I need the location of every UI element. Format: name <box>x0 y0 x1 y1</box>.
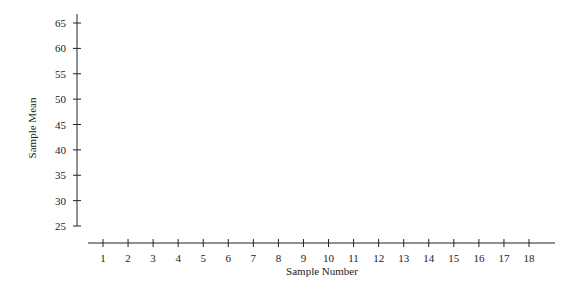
y-tick-label: 30 <box>55 195 67 207</box>
x-tick-label: 8 <box>276 252 282 264</box>
y-tick-label: 60 <box>55 42 67 54</box>
y-tick-label: 55 <box>55 68 67 80</box>
y-tick-label: 40 <box>55 144 67 156</box>
y-tick-label: 65 <box>55 17 67 29</box>
x-tick-label: 13 <box>398 252 410 264</box>
x-tick-label: 10 <box>323 252 335 264</box>
x-tick-label: 17 <box>498 252 510 264</box>
y-tick-label: 45 <box>55 119 67 131</box>
x-tick-label: 6 <box>226 252 232 264</box>
x-axis-label: Sample Number <box>286 265 358 277</box>
x-tick-label: 16 <box>473 252 485 264</box>
x-tick-label: 2 <box>125 252 131 264</box>
x-tick-label: 11 <box>348 252 359 264</box>
x-tick-label: 18 <box>524 252 536 264</box>
x-tick-label: 14 <box>423 252 435 264</box>
x-tick-label: 9 <box>301 252 307 264</box>
x-tick-label: 3 <box>150 252 156 264</box>
y-axis-label: Sample Mean <box>26 97 38 158</box>
y-tick-label: 50 <box>55 93 67 105</box>
y-tick-label: 25 <box>55 220 67 232</box>
y-tick-label: 35 <box>55 169 67 181</box>
x-tick-label: 7 <box>251 252 257 264</box>
x-tick-label: 4 <box>175 252 181 264</box>
chart-canvas: 656055504540353025 123456789101112131415… <box>0 0 579 292</box>
x-tick-label: 5 <box>200 252 206 264</box>
x-tick-label: 12 <box>373 252 384 264</box>
x-tick-label: 15 <box>448 252 460 264</box>
sample-mean-chart: 656055504540353025 123456789101112131415… <box>0 0 579 292</box>
x-tick-label: 1 <box>100 252 106 264</box>
